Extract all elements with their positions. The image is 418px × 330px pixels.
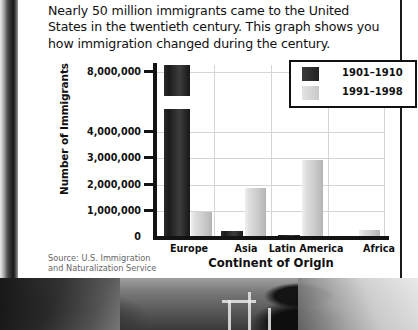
y-axis-tick [144,156,154,159]
y-axis-tick [144,209,154,212]
source-line-2: and Naturalization Service [48,263,198,273]
y-axis-tick [144,130,154,133]
gridline-vertical [271,65,272,238]
y-axis-tick [144,70,154,73]
bar-europe-1991-1998 [191,212,212,238]
y-axis-line [153,63,157,240]
y-tick-label-4000000: 4,000,000 [87,126,141,137]
x-tick-label-africa: Africa [352,243,406,254]
y-axis-title: Number of Immigrants [58,54,70,204]
y-tick-label-1000000: 1,000,000 [87,205,141,216]
y-axis-tick [144,183,154,186]
source-note: Source: U.S. Immigration and Naturalizat… [48,253,198,274]
photo-detail [268,308,271,330]
y-tick-label-2000000: 2,000,000 [87,179,141,190]
bar-asia-1991-1998 [245,188,266,238]
x-axis-line [153,236,389,240]
x-tick-label-latin-america: Latin America [261,243,351,254]
y-tick-label-0: 0 [134,231,141,242]
bottom-photograph [0,278,418,330]
legend-label-1991-1998: 1991–1998 [342,86,403,97]
chart-legend: 1901–1910 1991–1998 [289,60,417,108]
gridline-vertical [214,65,215,238]
immigration-bar-chart: 8,000,000 4,000,000 3,000,000 2,000,000 … [45,57,397,253]
legend-label-1901-1910: 1901–1910 [342,67,403,78]
intro-paragraph: Nearly 50 million immigrants came to the… [48,3,383,52]
photo-detail [228,300,231,330]
legend-swatch-dark-icon [302,67,319,81]
legend-swatch-light-icon [302,86,319,100]
y-tick-label-3000000: 3,000,000 [87,152,141,163]
photo-detail [222,300,256,303]
textbook-page: Nearly 50 million immigrants came to the… [0,0,418,330]
photo-detail [248,292,251,330]
axis-break-mark [164,96,190,109]
photo-right-highlight [298,278,418,330]
source-line-1: Source: U.S. Immigration [48,253,198,263]
bar-latin-america-1991-1998 [302,160,323,238]
bar-group-asia [221,65,271,238]
photo-left-shadow [0,278,120,330]
y-tick-label-8000000: 8,000,000 [87,66,141,77]
bar-group-europe [164,65,214,238]
content-card: Nearly 50 million immigrants came to the… [18,0,402,281]
page-left-gutter [0,0,13,281]
bar-europe-1901-1910 [164,65,190,238]
